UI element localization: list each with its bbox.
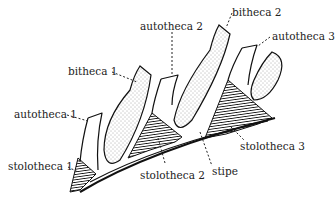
label-stolotheca-3: stolotheca 3: [240, 140, 305, 152]
label-stipe: stipe: [212, 165, 238, 177]
label-autotheca-3: autotheca 3: [272, 30, 335, 42]
stolotheca-1-shape: [70, 158, 96, 192]
label-stolotheca-2: stolotheca 2: [140, 169, 205, 181]
label-bitheca-1: bitheca 1: [68, 65, 117, 77]
bitheca-3-shape: [251, 52, 282, 100]
label-autotheca-2: autotheca 2: [140, 20, 203, 32]
autotheca-1-shape: [80, 113, 102, 170]
graptolite-diagram: bitheca 1 autotheca 2 bitheca 2 autothec…: [0, 0, 335, 209]
autotheca-2-shape: [152, 75, 178, 113]
label-stolotheca-1: stolotheca 1: [8, 160, 73, 172]
label-autotheca-1: autotheca 1: [14, 108, 77, 120]
leader-autotheca-3: [258, 37, 270, 46]
autotheca-3-shape: [228, 45, 257, 85]
label-bitheca-2: bitheca 2: [232, 6, 281, 18]
